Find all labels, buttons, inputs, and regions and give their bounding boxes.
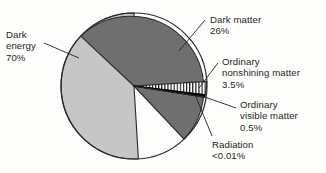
label-radiation-value: <0.01% [212, 150, 253, 161]
label-visible-line2: visible matter [240, 110, 298, 121]
label-dark-energy-line2: energy [6, 40, 36, 51]
label-visible-value: 0.5% [240, 122, 298, 133]
label-dark-energy-value: 70% [6, 52, 36, 63]
label-radiation: Radiation <0.01% [212, 139, 253, 162]
label-nonshining-line1: Ordinary [222, 56, 300, 67]
label-dark-energy-line1: Dark [6, 29, 36, 40]
label-visible-matter: Ordinary visible matter 0.5% [240, 99, 298, 133]
label-nonshining-matter: Ordinary nonshining matter 3.5% [222, 56, 300, 90]
label-visible-line1: Ordinary [240, 99, 298, 110]
label-dark-energy: Dark energy 70% [6, 29, 36, 63]
label-nonshining-line2: nonshining matter [222, 67, 300, 78]
label-radiation-line1: Radiation [212, 139, 253, 150]
label-dark-matter: Dark matter 26% [210, 14, 261, 37]
label-nonshining-value: 3.5% [222, 79, 300, 90]
label-dark-matter-value: 26% [210, 25, 261, 36]
pie-chart-figure: Dark energy 70% Dark matter 26% Ordinary… [0, 0, 326, 173]
leader-line-dark-matter [179, 20, 205, 51]
label-dark-matter-line1: Dark matter [210, 14, 261, 25]
